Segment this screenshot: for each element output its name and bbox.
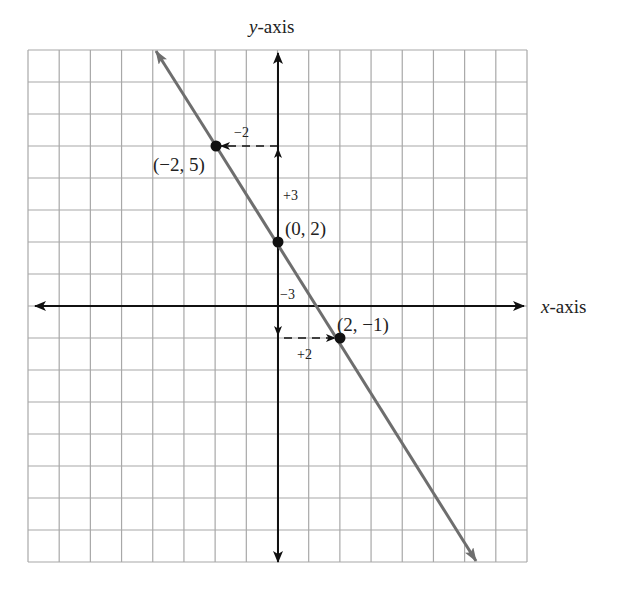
point-label: (−2, 5) xyxy=(153,154,205,176)
point-neg2-5 xyxy=(211,141,222,152)
step-label-fall-down: −3 xyxy=(280,287,295,302)
step-label-rise-up: +3 xyxy=(283,188,298,203)
y-axis-title: y-axis xyxy=(247,16,294,37)
x-axis-title: x-axis xyxy=(540,296,586,317)
point-label: (2, −1) xyxy=(337,314,389,336)
point-label: (0, 2) xyxy=(285,218,326,240)
step-label-run-right: +2 xyxy=(297,347,312,362)
point-0-2 xyxy=(273,237,284,248)
step-label-run-left: −2 xyxy=(234,125,249,140)
axes xyxy=(35,53,524,562)
coordinate-plane: y-axis x-axis (−2, 5) (0, 2) (2, −1) −2 … xyxy=(0,0,618,591)
